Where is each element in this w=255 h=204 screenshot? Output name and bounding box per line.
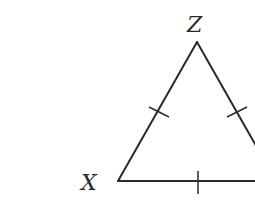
vertex-label-z: Z <box>187 14 202 36</box>
triangle-figure <box>0 0 255 204</box>
side-zy <box>197 42 255 181</box>
triangle-diagram: Z X <box>0 0 255 204</box>
congruence-tick-zy <box>227 107 247 117</box>
vertex-label-x: X <box>81 172 97 194</box>
